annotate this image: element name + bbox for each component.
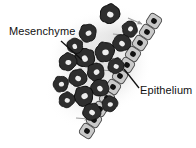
figure-canvas: Mesenchyme Epithelium bbox=[0, 0, 196, 148]
diagram-illustration bbox=[0, 0, 196, 148]
mesenchyme-label: Mesenchyme bbox=[9, 26, 75, 37]
epithelium-label: Epithelium bbox=[140, 85, 192, 96]
